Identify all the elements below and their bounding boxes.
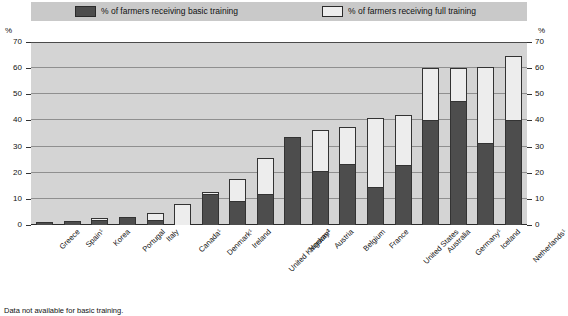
y-tick-r-30 [527, 147, 532, 148]
y-tick-l-10 [26, 199, 31, 200]
bar-segment-basic [422, 120, 439, 225]
x-axis-label-belgium: Belgium [362, 228, 387, 253]
bar-segment-basic [450, 101, 467, 225]
plot-area [31, 42, 527, 225]
y-tick-r-0 [527, 225, 532, 226]
bar-segment-full [367, 118, 384, 187]
bar-segment-basic [257, 194, 274, 225]
y-tick-label-left-60: 60 [4, 64, 22, 72]
y-tick-r-60 [527, 68, 532, 69]
bar-spain[interactable] [64, 221, 81, 225]
bar-segment-full [229, 179, 246, 201]
bar-netherlands[interactable] [505, 56, 522, 225]
y-tick-l-50 [26, 94, 31, 95]
chart-footnote: Data not available for basic training. [4, 306, 123, 315]
y-tick-label-right-10: 10 [535, 195, 553, 203]
legend-swatch-full-icon [322, 6, 343, 17]
bar-germany[interactable] [450, 68, 467, 225]
bar-segment-basic [119, 217, 136, 225]
bar-segment-basic [505, 120, 522, 225]
y-tick-label-right-70: 70 [535, 38, 553, 46]
bar-segment-full [339, 127, 356, 164]
y-tick-r-10 [527, 199, 532, 200]
legend-label-basic: % of farmers receiving basic training [101, 7, 238, 16]
y-tick-label-left-70: 70 [4, 38, 22, 46]
y-tick-r-40 [527, 120, 532, 121]
bar-segment-full [505, 56, 522, 120]
y-tick-r-20 [527, 173, 532, 174]
bar-unitedkingdom[interactable] [257, 158, 274, 225]
bar-segment-full [422, 68, 439, 120]
legend-item-full-training: % of farmers receiving full training [322, 6, 476, 17]
bar-italy[interactable] [147, 213, 164, 225]
y-tick-label-right-60: 60 [535, 64, 553, 72]
bar-iceland[interactable] [477, 67, 494, 225]
x-axis-label-korea: Korea [112, 228, 132, 248]
y-tick-label-right-50: 50 [535, 90, 553, 98]
bar-segment-basic [64, 221, 81, 225]
y-tick-l-70 [26, 42, 31, 43]
bar-austria[interactable] [312, 130, 329, 225]
bar-norway[interactable] [284, 137, 301, 225]
y-tick-l-60 [26, 68, 31, 69]
x-axis-label-netherlands: Netherlands¹ [532, 228, 568, 264]
bar-ireland[interactable] [229, 179, 246, 225]
bar-segment-full [312, 130, 329, 172]
bar-unitedstates[interactable] [395, 115, 412, 225]
bar-segment-full [477, 67, 494, 143]
y-tick-l-20 [26, 173, 31, 174]
y-tick-l-30 [26, 147, 31, 148]
bar-canada[interactable] [174, 204, 191, 225]
y-axis-unit-left: % [5, 27, 12, 35]
y-axis-unit-right: % [538, 27, 545, 35]
bar-segment-basic [91, 220, 108, 225]
bar-australia[interactable] [422, 68, 439, 225]
bar-belgium[interactable] [339, 127, 356, 225]
chart-legend: % of farmers receiving basic training % … [31, 2, 527, 21]
bar-segment-full [450, 68, 467, 101]
x-axis-label-ireland: Ireland [250, 228, 272, 250]
y-tick-label-left-30: 30 [4, 143, 22, 151]
bar-segment-full [257, 158, 274, 193]
bar-korea[interactable] [91, 218, 108, 225]
bar-segment-basic [147, 220, 164, 225]
x-axis-label-france: France [388, 228, 410, 250]
y-tick-r-70 [527, 42, 532, 43]
legend-item-basic-training: % of farmers receiving basic training [75, 6, 238, 17]
y-tick-label-left-40: 40 [4, 116, 22, 124]
y-tick-label-right-30: 30 [535, 143, 553, 151]
bar-segment-basic [229, 201, 246, 225]
y-tick-label-right-40: 40 [535, 116, 553, 124]
bar-segment-basic [36, 222, 53, 225]
bar-france[interactable] [367, 118, 384, 225]
bar-series-group [31, 42, 527, 225]
y-tick-r-50 [527, 94, 532, 95]
y-tick-l-40 [26, 120, 31, 121]
legend-label-full: % of farmers receiving full training [348, 7, 476, 16]
y-tick-label-right-20: 20 [535, 169, 553, 177]
x-axis-label-portugal: Portugal [142, 228, 168, 254]
bar-portugal[interactable] [119, 217, 136, 225]
x-axis-label-canada: Canada¹ [197, 228, 223, 254]
legend-swatch-basic-icon [75, 6, 96, 17]
bar-denmark[interactable] [202, 192, 219, 225]
bar-greece[interactable] [36, 222, 53, 225]
bar-segment-basic [202, 194, 219, 225]
y-tick-label-left-50: 50 [4, 90, 22, 98]
x-axis-labels: GreeceSpain¹KoreaPortugalItalyCanada¹Den… [31, 226, 527, 296]
bar-segment-basic [284, 137, 301, 225]
x-axis-label-norway: Norway² [307, 228, 333, 254]
x-axis-label-italy: Italy [165, 228, 181, 244]
bar-segment-basic [339, 164, 356, 225]
bar-segment-full [395, 115, 412, 165]
x-axis-label-austria: Austria [333, 228, 355, 250]
y-tick-label-right-0: 0 [535, 221, 553, 229]
bar-segment-basic [395, 165, 412, 225]
bar-segment-basic [477, 143, 494, 225]
bar-segment-full [174, 204, 191, 225]
y-tick-label-left-20: 20 [4, 169, 22, 177]
y-tick-label-left-0: 0 [4, 221, 22, 229]
x-axis-label-greece: Greece [58, 228, 81, 251]
bar-segment-basic [312, 171, 329, 225]
